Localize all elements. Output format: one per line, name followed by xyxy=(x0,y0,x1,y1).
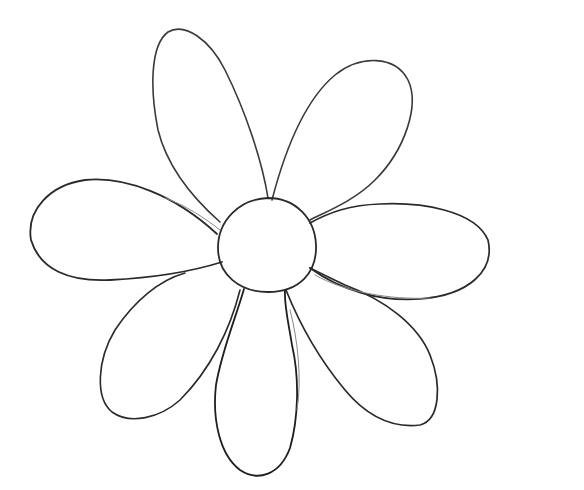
petal-bottom xyxy=(215,289,297,476)
petal-bottom-right xyxy=(286,268,437,426)
flower-drawing xyxy=(0,0,584,490)
flower-svg xyxy=(0,0,584,490)
petal-top-right xyxy=(272,61,412,220)
flower-center xyxy=(218,198,316,292)
petal-bottom-left xyxy=(100,273,240,419)
petal-top-left xyxy=(153,29,268,222)
